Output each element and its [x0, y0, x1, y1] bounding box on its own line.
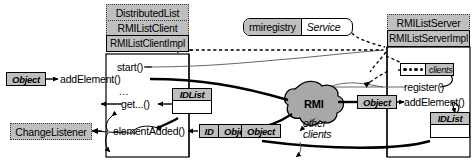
token-object-param-client[interactable]: Object — [6, 72, 46, 86]
client-method-start[interactable]: start() — [117, 61, 143, 73]
token-object-param-server[interactable]: Object — [357, 95, 397, 109]
server-interface-rmilistserver[interactable]: RMIListServer — [387, 14, 470, 31]
clients-slot-dot — [403, 68, 407, 72]
server-method-addelement[interactable]: addElement() — [404, 96, 465, 108]
other-clients-line2: clients — [303, 128, 331, 140]
rmiregistry-name: rmiregistry — [244, 19, 302, 35]
rmi-cloud-label: RMI — [304, 98, 324, 110]
client-interface-rmilistclient[interactable]: RMIListClient — [106, 20, 189, 37]
other-clients-annotation: other clients — [303, 118, 331, 140]
idlist-client-node[interactable]: IDList — [172, 88, 212, 114]
idlist-client-header: IDList — [172, 88, 212, 101]
client-method-elementadded[interactable]: elementAdded() — [113, 125, 185, 137]
idlist-server-node[interactable]: IDList — [430, 112, 470, 138]
server-impl-rmilistserverimpl[interactable]: RMIListServerImpl — [387, 30, 470, 47]
token-object-param-cloud[interactable]: Object — [241, 124, 281, 138]
client-method-addelement[interactable]: addElement() — [60, 73, 121, 85]
changelistener-interface[interactable]: ChangeListener — [10, 123, 92, 140]
idlist-server-header: IDList — [430, 112, 470, 125]
client-interface-distributedlist[interactable]: DistributedList — [106, 4, 189, 21]
rmiregistry-node[interactable]: rmiregistry Service — [243, 18, 353, 36]
rmiregistry-service: Service — [302, 19, 348, 35]
token-id-param[interactable]: ID — [199, 124, 219, 138]
server-class-stack: RMIListServer RMIListServerImpl — [387, 14, 470, 47]
clients-slot-dot — [409, 68, 413, 72]
clients-slot-dot — [414, 68, 418, 72]
clients-label: clients — [425, 64, 454, 75]
idlist-client-body — [172, 101, 212, 114]
client-impl-rmilistclientimpl[interactable]: RMIListClientImpl — [106, 35, 189, 52]
client-method-get[interactable]: get...() — [121, 98, 150, 110]
client-class-stack: DistributedList RMIListClient RMIListCli… — [106, 4, 189, 52]
clients-slots — [401, 68, 425, 72]
idlist-server-body — [430, 125, 470, 138]
client-method-ellipsis: ... — [119, 86, 129, 97]
clients-collection-box[interactable]: clients — [400, 63, 454, 76]
diagram-canvas: DistributedList RMIListClient RMIListCli… — [0, 0, 476, 161]
clients-slot-dot — [420, 68, 424, 72]
server-method-register[interactable]: register() — [404, 81, 444, 93]
